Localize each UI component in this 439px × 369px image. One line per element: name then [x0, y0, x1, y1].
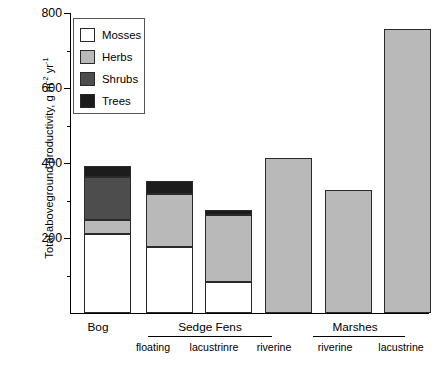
- y-tick-100: [67, 276, 72, 277]
- legend-swatch-mosses: [80, 28, 95, 42]
- y-tick-800: [64, 13, 71, 14]
- bar-sedge-fen-riverine[interactable]: [265, 158, 312, 313]
- bar-segment-herbs: [205, 215, 252, 283]
- y-tick-300: [67, 201, 72, 202]
- plot-area: 800 600 400 200: [70, 13, 429, 314]
- bar-segment-herbs: [325, 190, 372, 313]
- legend-label-herbs: Herbs: [102, 51, 132, 63]
- bar-segment-trees: [84, 166, 131, 177]
- bar-bog[interactable]: [84, 166, 131, 313]
- legend: Mosses Herbs Shrubs Trees: [73, 18, 145, 114]
- y-axis-title-exp-year: -1: [41, 57, 50, 64]
- bar-segment-mosses: [205, 282, 252, 313]
- x-sub-label-riverine-marsh: riverine: [302, 341, 368, 353]
- bar-marsh-riverine[interactable]: [325, 190, 372, 313]
- group-rule-sedge-fens: [148, 336, 272, 337]
- y-tick-700: [67, 51, 72, 52]
- legend-swatch-shrubs: [80, 72, 95, 86]
- bar-segment-trees: [205, 210, 252, 215]
- y-tick-600: [64, 88, 71, 89]
- x-group-label-marshes: Marshes: [300, 320, 410, 334]
- y-tick-500: [67, 126, 72, 127]
- x-sub-label-riverine-fen: riverine: [241, 341, 307, 353]
- y-axis-title-mid: yr: [43, 64, 55, 76]
- bar-segment-mosses: [146, 247, 193, 313]
- chart-figure: Total aboveground productivity, g m-2 yr…: [0, 0, 439, 369]
- bar-segment-mosses: [84, 234, 131, 313]
- bar-sedge-fen-lacustrinre[interactable]: [205, 210, 252, 313]
- bar-segment-shrubs: [84, 177, 131, 220]
- legend-item-herbs: Herbs: [74, 46, 144, 68]
- bar-segment-herbs: [84, 220, 131, 234]
- y-tick-label-600: 600: [41, 82, 62, 94]
- legend-item-shrubs: Shrubs: [74, 68, 144, 90]
- bar-segment-herbs: [384, 29, 431, 313]
- x-group-label-sedge-fens: Sedge Fens: [145, 320, 275, 334]
- bar-segment-herbs: [265, 158, 312, 313]
- y-tick-label-200: 200: [41, 232, 62, 244]
- bar-segment-herbs: [146, 194, 193, 248]
- legend-label-trees: Trees: [102, 95, 131, 107]
- y-tick-200: [64, 238, 71, 239]
- bar-sedge-fen-floating[interactable]: [146, 181, 193, 313]
- legend-label-mosses: Mosses: [102, 29, 141, 41]
- x-group-label-bog: Bog: [63, 320, 133, 334]
- legend-swatch-trees: [80, 94, 95, 108]
- x-sub-label-lacustrine-marsh: lacustrine: [364, 341, 438, 353]
- bar-marsh-lacustrine[interactable]: [384, 29, 431, 313]
- legend-item-mosses: Mosses: [74, 24, 144, 46]
- legend-label-shrubs: Shrubs: [102, 73, 138, 85]
- y-tick-label-400: 400: [41, 157, 62, 169]
- legend-swatch-herbs: [80, 50, 95, 64]
- legend-item-trees: Trees: [74, 90, 144, 112]
- bar-segment-trees: [146, 181, 193, 194]
- group-rule-marshes: [313, 336, 405, 337]
- y-tick-400: [64, 163, 71, 164]
- y-tick-label-800: 800: [41, 7, 62, 19]
